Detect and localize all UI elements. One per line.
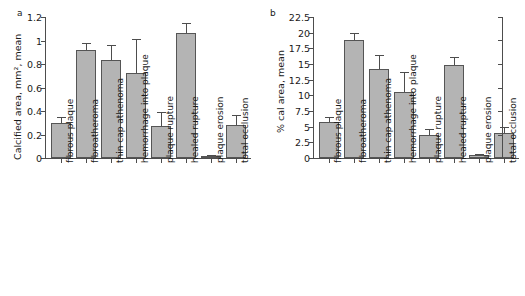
- error-bar-line: [186, 23, 187, 34]
- y-axis-tick-label: 1: [0, 35, 42, 46]
- error-bar-cap: [350, 33, 359, 34]
- x-axis-category-label: total occlusion: [508, 98, 518, 163]
- error-bar-cap: [182, 23, 191, 24]
- x-axis-tick: [236, 159, 237, 163]
- x-axis-tick: [111, 159, 112, 163]
- y-axis-tick-label: 7.5: [250, 106, 310, 117]
- x-axis-tick: [479, 159, 480, 163]
- y-axis-tick-label: 10: [250, 90, 310, 101]
- x-axis-category-label: healed rupture: [190, 96, 200, 163]
- y-axis-tick-label: 0: [250, 153, 310, 164]
- x-axis-category-label: fibroatheroma: [358, 99, 368, 163]
- cropped-axis-tick: [498, 88, 502, 89]
- x-axis-category-label: plaque erosion: [483, 97, 493, 164]
- error-bar-line: [454, 57, 455, 65]
- y-axis-tick-label: 2.5: [250, 137, 310, 148]
- error-bar-line: [404, 72, 405, 93]
- error-bar-line: [111, 45, 112, 60]
- x-axis-tick: [86, 159, 87, 163]
- x-axis-category-label: total occlusion: [240, 98, 250, 163]
- y-axis-tick-label: 15: [250, 59, 310, 70]
- error-bar-cap: [132, 39, 141, 40]
- x-axis-category-label: healed rupture: [458, 96, 468, 163]
- x-axis-category-label: hemorrhage into plaque: [140, 54, 150, 163]
- x-axis-tick: [136, 159, 137, 163]
- cropped-next-panel-axis: [502, 17, 503, 159]
- x-axis-category-label: fibroatheroma: [90, 99, 100, 163]
- cropped-axis-tick: [498, 135, 502, 136]
- x-axis-category-label: thin cap athenoma: [115, 78, 125, 163]
- x-axis-tick: [329, 159, 330, 163]
- x-axis-category-label: hemorrhage into plaque: [408, 54, 418, 163]
- y-axis-line: [45, 17, 46, 159]
- x-axis-tick: [61, 159, 62, 163]
- x-axis-category-label: plaque rupture: [433, 96, 443, 163]
- x-axis-tick: [504, 159, 505, 163]
- panel-a: a Calcified area, mm², mean 00.20.40.60.…: [0, 0, 263, 296]
- x-axis-tick: [186, 159, 187, 163]
- y-axis-tick-label: 1.2: [0, 12, 42, 23]
- x-axis-category-label: fibrous plaque: [65, 99, 75, 163]
- cropped-axis-tick: [498, 158, 502, 159]
- x-axis-tick: [354, 159, 355, 163]
- x-axis-tick: [454, 159, 455, 163]
- panel-a-y-axis-label: Calcified area, mm², mean: [12, 34, 23, 160]
- error-bar-cap: [82, 43, 91, 44]
- cropped-axis-tick: [498, 17, 502, 18]
- error-bar-line: [161, 112, 162, 126]
- y-axis-tick-label: 0.6: [0, 82, 42, 93]
- y-axis-tick-label: 12.5: [250, 74, 310, 85]
- error-bar-line: [136, 39, 137, 73]
- cropped-axis-tick: [498, 111, 502, 112]
- x-axis-tick: [429, 159, 430, 163]
- error-bar-cap: [450, 57, 459, 58]
- error-bar-cap: [375, 55, 384, 56]
- x-axis-category-label: thin cap athenoma: [383, 78, 393, 163]
- y-axis-tick-label: 20: [250, 27, 310, 38]
- panel-b: b % cal area, mean 02.557.51012.51517.52…: [263, 0, 525, 296]
- y-axis-tick-label: 0.2: [0, 129, 42, 140]
- x-axis-category-label: plaque rupture: [165, 96, 175, 163]
- x-axis-tick: [211, 159, 212, 163]
- x-axis-tick: [404, 159, 405, 163]
- figure: a Calcified area, mm², mean 00.20.40.60.…: [0, 0, 525, 296]
- x-axis-tick: [379, 159, 380, 163]
- x-axis-tick: [161, 159, 162, 163]
- x-axis-category-label: plaque erosion: [215, 97, 225, 164]
- error-bar-line: [236, 115, 237, 126]
- error-bar-line: [379, 55, 380, 69]
- error-bar-line: [354, 33, 355, 40]
- error-bar-cap: [107, 45, 116, 46]
- y-axis-tick-label: 22.5: [250, 12, 310, 23]
- y-axis-tick-label: 17.5: [250, 43, 310, 54]
- cropped-axis-tick: [498, 40, 502, 41]
- x-axis-category-label: fibrous plaque: [333, 99, 343, 163]
- y-axis-line: [313, 17, 314, 159]
- y-axis-tick-label: 0: [0, 153, 42, 164]
- y-axis-tick-label: 0.8: [0, 59, 42, 70]
- y-axis-tick-label: 0.4: [0, 106, 42, 117]
- cropped-axis-tick: [498, 64, 502, 65]
- y-axis-tick-label: 5: [250, 121, 310, 132]
